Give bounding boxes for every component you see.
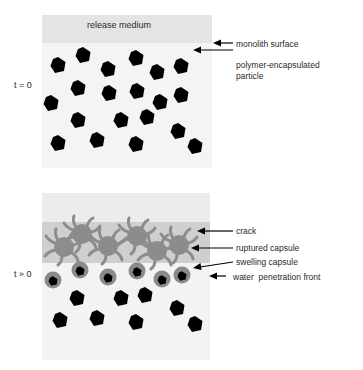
time-label-t0: t = 0 — [14, 80, 32, 90]
release-medium-label: release medium — [87, 20, 151, 30]
ruptured-capsule-label: ruptured capsule — [236, 243, 299, 253]
monolith-surface-label: monolith surface — [236, 39, 298, 49]
crack-label: crack — [236, 226, 256, 236]
time-label-t-gt-0: t » 0 — [14, 269, 32, 279]
release-medium-band — [42, 193, 210, 222]
diagram-canvas — [0, 0, 363, 370]
water-penetration-front-label: water penetration front — [233, 272, 320, 282]
polymer-encapsulated-label-line2: particle — [236, 71, 263, 81]
polymer-encapsulated-label-line1: polymer-encapsulated — [236, 60, 320, 70]
panel-t0 — [42, 15, 233, 168]
panel-t-gt-0 — [42, 193, 233, 360]
swelling-capsule-label: swelling capsule — [236, 257, 298, 267]
